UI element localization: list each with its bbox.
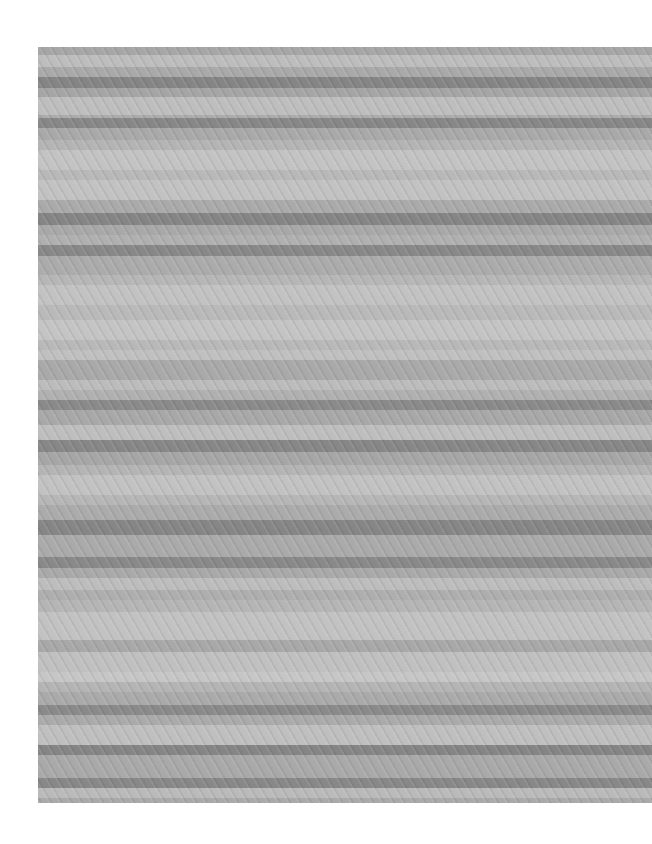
fabric-stripe — [38, 350, 652, 360]
fabric-stripe — [38, 77, 652, 88]
fabric-stripe — [38, 682, 652, 692]
fabric-stripe — [38, 380, 652, 390]
fabric-stripe — [38, 612, 652, 640]
fabric-stripe — [38, 200, 652, 213]
fabric-stripe — [38, 495, 652, 505]
fabric-stripe — [38, 778, 652, 788]
fabric-stripe — [38, 245, 652, 256]
fabric-stripe — [38, 150, 652, 170]
fabric-stripe — [38, 568, 652, 578]
fabric-stripe — [38, 557, 652, 568]
fabric-stripe — [38, 88, 652, 97]
fabric-stripe — [38, 452, 652, 465]
fabric-stripe — [38, 652, 652, 672]
fabric-stripe — [38, 225, 652, 235]
fabric-stripe — [38, 275, 652, 285]
fabric-stripe — [38, 235, 652, 245]
fabric-stripe — [38, 590, 652, 600]
fabric-stripe — [38, 55, 652, 67]
fabric-stripe — [38, 213, 652, 225]
fabric-stripe — [38, 67, 652, 77]
fabric-stripe — [38, 715, 652, 725]
fabric-stripe — [38, 520, 652, 535]
photo-canvas — [0, 0, 652, 844]
fabric-stripe — [38, 320, 652, 340]
fabric-stripe — [38, 128, 652, 140]
fabric-stripe — [38, 425, 652, 440]
fabric-stripe — [38, 692, 652, 705]
fabric-stripe — [38, 672, 652, 682]
fabric-stripe — [38, 340, 652, 350]
fabric-stripe — [38, 400, 652, 410]
fabric-stripe — [38, 600, 652, 612]
fabric-stripe — [38, 47, 652, 55]
fabric-stripe — [38, 118, 652, 128]
fabric-stripe — [38, 390, 652, 400]
fabric-stripe — [38, 745, 652, 755]
fabric-stripe — [38, 360, 652, 380]
fabric-stripe — [38, 578, 652, 590]
striped-fabric — [38, 47, 652, 803]
fabric-stripe — [38, 180, 652, 200]
fabric-stripe — [38, 97, 652, 115]
fabric-stripe — [38, 475, 652, 495]
fabric-stripe — [38, 725, 652, 745]
fabric-stripe — [38, 465, 652, 475]
fabric-stripe — [38, 256, 652, 275]
fabric-stripe — [38, 505, 652, 520]
fabric-stripe — [38, 170, 652, 180]
fabric-stripe — [38, 755, 652, 778]
fabric-stripe — [38, 640, 652, 652]
fabric-stripe — [38, 285, 652, 305]
fabric-stripe — [38, 788, 652, 798]
fabric-stripe — [38, 535, 652, 557]
fabric-stripe — [38, 140, 652, 150]
fabric-stripe — [38, 798, 652, 803]
fabric-stripe — [38, 410, 652, 425]
fabric-stripe — [38, 305, 652, 320]
fabric-stripe — [38, 440, 652, 452]
fabric-stripe — [38, 705, 652, 715]
